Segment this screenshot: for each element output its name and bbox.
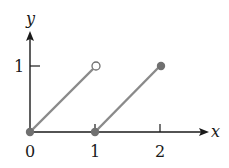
y-tick-label-1: 1 (14, 57, 24, 76)
y-axis-label: y (25, 9, 36, 28)
step-graph: y x 1 0 1 2 (0, 0, 229, 168)
x-tick-label-0: 0 (25, 142, 35, 161)
filled-point-2-1 (157, 62, 165, 70)
segment-2 (95, 66, 160, 132)
segment-1 (30, 69, 93, 132)
filled-point-origin (26, 128, 34, 136)
open-point-1-1 (92, 62, 100, 70)
x-axis-label: x (211, 122, 220, 141)
x-tick-label-1: 1 (90, 142, 100, 161)
filled-point-1-0 (91, 128, 99, 136)
x-tick-label-2: 2 (155, 142, 165, 161)
